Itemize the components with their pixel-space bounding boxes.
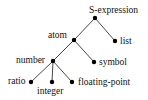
type-tree-diagram: S-expression atom list number symbol rat… bbox=[0, 0, 148, 100]
edge-atom-number bbox=[53, 40, 74, 61]
edge-sexpr-atom bbox=[74, 18, 95, 40]
node-list bbox=[113, 39, 117, 43]
node-ratio bbox=[29, 80, 33, 84]
label-ratio: ratio bbox=[8, 76, 26, 86]
label-sexpr: S-expression bbox=[89, 5, 138, 15]
label-symbol: symbol bbox=[99, 57, 127, 67]
edge-atom-symbol bbox=[74, 40, 94, 62]
label-list: list bbox=[120, 36, 132, 46]
node-floating-point bbox=[70, 80, 74, 84]
node-symbol bbox=[92, 60, 96, 64]
label-number: number bbox=[16, 55, 46, 65]
edge-number-integer bbox=[52, 61, 53, 82]
node-integer bbox=[50, 80, 54, 84]
node-sexpr bbox=[93, 16, 97, 20]
label-floating-point: floating-point bbox=[78, 77, 131, 87]
edge-number-floating bbox=[53, 61, 72, 82]
node-atom bbox=[72, 38, 76, 42]
label-atom: atom bbox=[48, 30, 68, 40]
edge-sexpr-list bbox=[95, 18, 115, 41]
node-number bbox=[51, 59, 55, 63]
label-integer: integer bbox=[37, 86, 64, 96]
